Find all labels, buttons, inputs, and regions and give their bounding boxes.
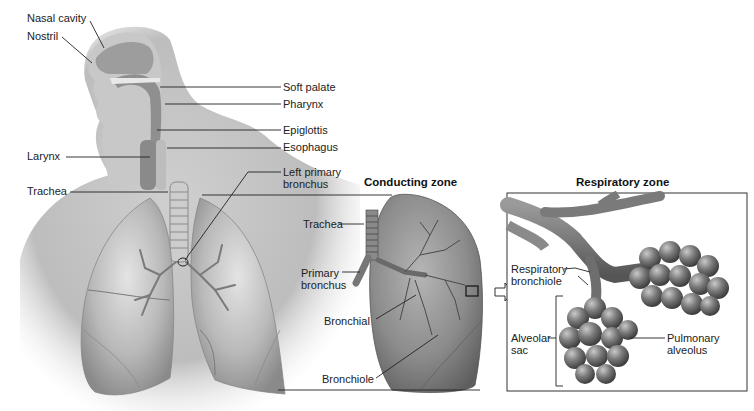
- label-alveolar-sac-line2: sac: [511, 344, 528, 356]
- label-pharynx: Pharynx: [283, 98, 323, 110]
- label-left-primary-bronchus-line2: bronchus: [283, 178, 328, 190]
- respiratory-zone-title: Respiratory zone: [576, 176, 669, 188]
- conducting-zone-illustration: [356, 194, 482, 392]
- label-respiratory-bronchiole-line2: bronchiole: [511, 275, 562, 287]
- conducting-zone-title: Conducting zone: [364, 176, 457, 188]
- label-trachea: Trachea: [27, 185, 67, 197]
- label-nostril: Nostril: [27, 30, 58, 42]
- label-pulmonary-alveolus-line2: alveolus: [667, 344, 707, 356]
- label-pulmonary-alveolus-line1: Pulmonary: [667, 332, 720, 344]
- label-larynx: Larynx: [27, 150, 60, 162]
- label-cz-bronchiole: Bronchiole: [322, 373, 374, 385]
- respiratory-zone-illustration: [507, 193, 747, 391]
- respiratory-diagram: [0, 0, 754, 411]
- label-left-primary-bronchus-line1: Left primary: [283, 166, 341, 178]
- label-nasal-cavity: Nasal cavity: [27, 12, 86, 24]
- label-alveolar-sac-line1: Alveolar: [511, 332, 551, 344]
- label-cz-primary-bronchus-line1: Primary: [301, 267, 339, 279]
- label-esophagus: Esophagus: [283, 141, 338, 153]
- label-soft-palate: Soft palate: [283, 81, 336, 93]
- label-cz-primary-bronchus-line2: bronchus: [301, 279, 346, 291]
- label-cz-trachea: Trachea: [303, 218, 343, 230]
- label-respiratory-bronchiole-line1: Respiratory: [511, 263, 567, 275]
- label-epiglottis: Epiglottis: [283, 124, 328, 136]
- label-cz-bronchial: Bronchial: [324, 315, 370, 327]
